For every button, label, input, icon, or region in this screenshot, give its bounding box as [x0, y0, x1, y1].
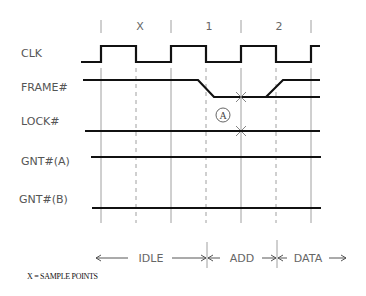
signal-label-clk: CLK: [21, 47, 43, 60]
signal-label-lock: LOCK#: [21, 115, 60, 128]
cycle-label-x: X: [136, 20, 144, 33]
signal-label-gnt-b: GNT#(B): [19, 193, 68, 206]
annotation-label: A: [219, 110, 227, 121]
phase-label-add: ADD: [230, 252, 254, 265]
signal-label-frame: FRAME#: [21, 81, 68, 94]
clk-waveform: [81, 46, 320, 62]
timing-diagram: X 1 2 CLK FRAME# LOCK# GNT#(A) GNT#(B) A: [0, 0, 366, 296]
cycle-label-2: 2: [276, 20, 283, 33]
footnote: X = SAMPLE POINTS: [27, 272, 98, 281]
frame-waveform-high: [83, 80, 320, 97]
phase-label-data: DATA: [294, 252, 323, 265]
cycle-label-1: 1: [206, 20, 213, 33]
phase-label-idle: IDLE: [139, 252, 164, 265]
signal-label-gnt-a: GNT#(A): [21, 155, 70, 168]
